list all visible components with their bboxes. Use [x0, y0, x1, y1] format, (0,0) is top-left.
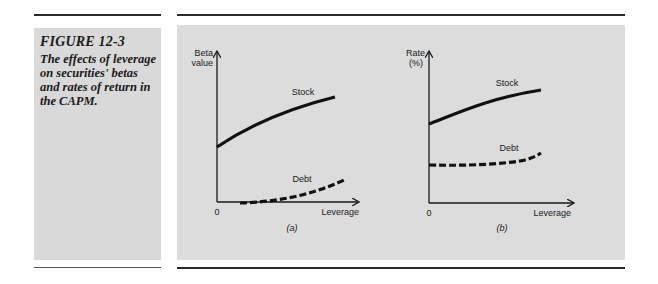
debt-label-a: Debt [292, 174, 312, 184]
panel-label-b: (b) [497, 223, 508, 233]
chart-b: Rate (%) 0 Leverage (b) Stock Debt [406, 48, 573, 233]
stock-line-a [217, 97, 335, 147]
figure-caption-text: The effects of leverage on securities' b… [40, 52, 160, 108]
stock-label-a: Stock [292, 87, 315, 97]
debt-line-b [429, 153, 541, 165]
figure-panel: Beta value 0 Leverage (a) Stock Debt Rat… [177, 25, 625, 260]
origin-a: 0 [214, 207, 219, 217]
origin-b: 0 [426, 208, 431, 218]
x-label-a: Leverage [321, 207, 359, 217]
caption-top-rule [34, 14, 161, 16]
y-label-a-2: value [191, 58, 213, 68]
y-label-b-1: Rate [406, 48, 425, 58]
stock-label-b: Stock [496, 78, 519, 88]
figure-number: FIGURE 12-3 [40, 34, 125, 50]
y-label-b-2: (%) [409, 58, 423, 68]
panel-label-a: (a) [287, 223, 298, 233]
figure-bottom-rule [177, 267, 625, 269]
x-label-b: Leverage [533, 208, 571, 218]
figure-top-rule [177, 14, 625, 16]
y-label-a-1: Beta [194, 48, 213, 58]
chart-a: Beta value 0 Leverage (a) Stock Debt [191, 48, 359, 233]
debt-label-b: Debt [499, 143, 519, 153]
figure-charts: Beta value 0 Leverage (a) Stock Debt Rat… [177, 25, 625, 260]
caption-bottom-rule [34, 267, 161, 268]
stock-line-b [429, 90, 541, 124]
figure-caption-panel: FIGURE 12-3 The effects of leverage on s… [34, 28, 161, 260]
